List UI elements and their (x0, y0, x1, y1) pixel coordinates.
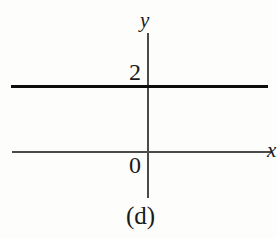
x-axis-label: x (267, 140, 276, 161)
y-axis-label: y (140, 10, 149, 31)
plotted-line-y-equals-2 (11, 85, 268, 88)
figure-caption: (d) (126, 203, 155, 228)
y-axis-line (147, 33, 149, 198)
y-tick-label-2: 2 (129, 60, 141, 84)
x-axis-line (12, 151, 272, 153)
figure-panel-d: y x 2 0 (d) (0, 0, 277, 238)
origin-label-0: 0 (129, 153, 141, 177)
